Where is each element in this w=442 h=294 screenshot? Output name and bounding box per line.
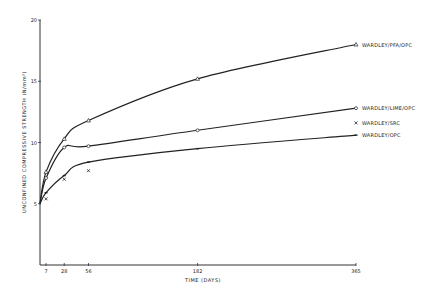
y-tick-label: 5 — [34, 201, 37, 207]
series-label: WARDLEY/PFA/OPC — [362, 42, 412, 48]
y-axis-title: UNCONFINED COMPRESSIVE STRENGTH (N/mm²) — [21, 71, 27, 213]
circle-marker — [63, 146, 66, 149]
x-tick-label: 28 — [61, 268, 67, 274]
circle-marker — [87, 145, 90, 148]
circle-marker — [355, 107, 358, 110]
x-tick-label: 7 — [44, 268, 47, 274]
x-tick-label: 365 — [351, 268, 361, 274]
x-tick-label: 56 — [85, 268, 91, 274]
series-group: WARDLEY/PFA/OPCWARDLEY/LIME/OPCWARDLEY/S… — [40, 42, 415, 204]
cross-marker — [355, 121, 358, 124]
series-label: WARDLEY/SRC — [362, 120, 400, 126]
y-tick-label: 15 — [31, 78, 37, 84]
cross-marker — [63, 178, 66, 181]
series-wardley-lime-opc: WARDLEY/LIME/OPC — [40, 105, 415, 204]
cross-marker — [45, 197, 48, 200]
triangle-marker — [44, 170, 48, 174]
circle-marker — [196, 129, 199, 132]
series-label: WARDLEY/LIME/OPC — [362, 105, 415, 111]
circle-marker — [45, 177, 48, 180]
y-tick-label: 20 — [31, 17, 37, 23]
strength-chart: 510152072856182365 WARDLEY/PFA/OPCWARDLE… — [0, 0, 442, 294]
x-tick-label: 182 — [193, 268, 203, 274]
series-wardley-opc: WARDLEY/OPC — [40, 132, 401, 204]
cross-marker — [87, 169, 90, 172]
series-label: WARDLEY/OPC — [362, 132, 401, 138]
axes: 510152072856182365 — [31, 17, 361, 274]
triangle-marker — [354, 43, 358, 47]
y-tick-label: 10 — [31, 140, 37, 146]
triangle-marker — [196, 77, 200, 81]
triangle-marker — [86, 118, 90, 122]
x-axis-title: TIME (DAYS) — [184, 277, 221, 283]
